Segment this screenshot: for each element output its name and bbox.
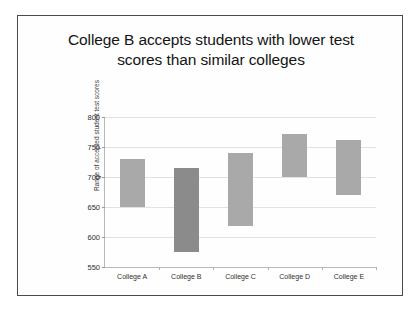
slide-title-line-2: scores than similar colleges bbox=[36, 50, 386, 70]
y-axis-tick-label: 750 bbox=[87, 143, 100, 152]
x-axis-tick-mark bbox=[159, 267, 160, 270]
x-axis-tick-label: College B bbox=[171, 273, 201, 280]
y-axis-tick-label: 550 bbox=[87, 263, 100, 272]
bar-college-e bbox=[336, 140, 361, 195]
x-axis-tick-label: College D bbox=[279, 273, 310, 280]
bar-college-c bbox=[228, 153, 253, 226]
y-axis-tick-label: 700 bbox=[87, 173, 100, 182]
gridline bbox=[105, 237, 376, 238]
plot-wrap: 550600650700750800 College ACollege BCol… bbox=[104, 117, 376, 268]
x-axis-tick-label: College C bbox=[225, 273, 256, 280]
slide-title-line-1: College B accepts students with lower te… bbox=[36, 30, 386, 50]
y-axis-tick-mark bbox=[102, 177, 105, 178]
y-axis-tick-label: 650 bbox=[87, 203, 100, 212]
x-axis-tick-label: College E bbox=[334, 273, 364, 280]
gridline bbox=[105, 117, 376, 118]
bar-college-a bbox=[120, 159, 145, 207]
gridline bbox=[105, 147, 376, 148]
range-bar-chart: Range of accepted student test scores 55… bbox=[58, 96, 394, 286]
y-axis-tick-mark bbox=[102, 207, 105, 208]
bar-college-d bbox=[282, 134, 307, 177]
y-axis-tick-mark bbox=[102, 237, 105, 238]
plot-area: 550600650700750800 College ACollege BCol… bbox=[104, 117, 376, 268]
y-axis-tick-mark bbox=[102, 147, 105, 148]
x-axis-tick-mark bbox=[268, 267, 269, 270]
x-axis-tick-mark bbox=[213, 267, 214, 270]
slide-title: College B accepts students with lower te… bbox=[36, 30, 386, 70]
y-axis-tick-label: 600 bbox=[87, 233, 100, 242]
x-axis-tick-label: College A bbox=[117, 273, 147, 280]
y-axis-tick-mark bbox=[102, 117, 105, 118]
bar-college-b bbox=[174, 168, 199, 252]
slide-frame: College B accepts students with lower te… bbox=[17, 15, 403, 296]
y-axis-tick-label: 800 bbox=[87, 113, 100, 122]
y-axis-tick-mark bbox=[102, 267, 105, 268]
x-axis-tick-mark bbox=[322, 267, 323, 270]
x-axis-tick-mark bbox=[376, 267, 377, 270]
